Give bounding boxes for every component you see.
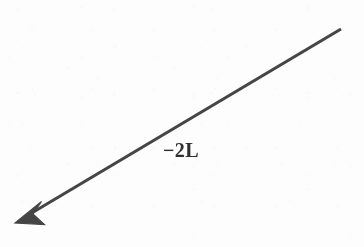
vector-arrow-diagram: −2L [0,0,364,247]
arrowhead [15,202,45,225]
arrow-shaft [30,29,341,214]
vector-label: −2L [163,140,199,160]
vector-arrow-icon [15,29,341,225]
vector-canvas [0,0,364,247]
